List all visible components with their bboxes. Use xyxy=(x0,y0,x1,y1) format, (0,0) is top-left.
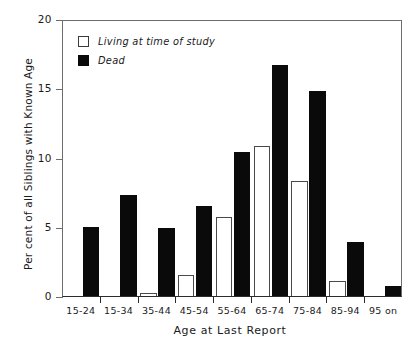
x-tick-mark xyxy=(138,297,139,303)
bar-dead xyxy=(347,242,364,296)
x-tick-label: 95 on xyxy=(364,305,402,316)
y-tick-label: 0 xyxy=(22,290,52,302)
legend-label-dead: Dead xyxy=(98,55,125,66)
x-tick-label: 65-74 xyxy=(251,305,289,316)
y-tick-label: 15 xyxy=(22,82,52,94)
y-tick-mark xyxy=(56,297,63,298)
bar-living xyxy=(291,181,308,296)
bar-dead xyxy=(196,206,213,296)
x-tick-label: 35-44 xyxy=(138,305,176,316)
x-tick-mark xyxy=(175,297,176,303)
x-tick-mark xyxy=(364,297,365,303)
bar-dead xyxy=(272,65,289,296)
chart-legend: Living at time of study Dead xyxy=(78,33,215,71)
y-tick-label: 5 xyxy=(22,221,52,233)
bar-dead xyxy=(83,227,100,296)
open-square-swatch-icon xyxy=(78,36,89,47)
legend-item-dead: Dead xyxy=(78,52,215,68)
y-tick-label: 20 xyxy=(22,13,52,25)
x-tick-mark xyxy=(100,297,101,303)
x-axis-title: Age at Last Report xyxy=(60,324,400,337)
legend-item-living: Living at time of study xyxy=(78,33,215,49)
filled-square-swatch-icon xyxy=(78,55,89,66)
bar-dead xyxy=(309,91,326,296)
x-tick-label: 45-54 xyxy=(175,305,213,316)
y-tick-label: 10 xyxy=(22,152,52,164)
bar-living xyxy=(216,217,233,296)
bar-group xyxy=(290,21,328,296)
x-tick-label: 15-34 xyxy=(100,305,138,316)
bar-living xyxy=(140,293,157,296)
x-tick-label: 75-84 xyxy=(289,305,327,316)
x-tick-label: 55-64 xyxy=(213,305,251,316)
bar-living xyxy=(178,275,195,296)
bar-group xyxy=(365,21,403,296)
y-axis-title: Per cent of all Siblings with Known Age xyxy=(22,44,34,284)
bar-dead xyxy=(385,286,402,296)
bar-group xyxy=(214,21,252,296)
bar-living xyxy=(329,281,346,296)
bar-living xyxy=(254,146,271,296)
bar-chart-figure: Per cent of all Siblings with Known Age … xyxy=(0,0,415,346)
x-tick-mark xyxy=(289,297,290,303)
bar-group xyxy=(252,21,290,296)
x-tick-label: 85-94 xyxy=(326,305,364,316)
bar-dead xyxy=(120,195,137,296)
x-tick-mark xyxy=(326,297,327,303)
bar-dead xyxy=(234,152,251,296)
x-tick-label: 15-24 xyxy=(62,305,100,316)
x-tick-mark xyxy=(213,297,214,303)
x-tick-mark xyxy=(251,297,252,303)
bar-dead xyxy=(158,228,175,296)
legend-label-living: Living at time of study xyxy=(98,36,215,47)
bar-group xyxy=(327,21,365,296)
